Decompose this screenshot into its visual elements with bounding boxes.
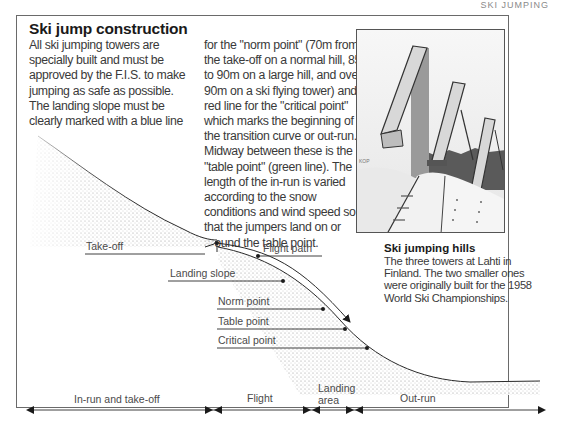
label-norm-point: Norm point xyxy=(218,295,269,307)
zone-in-run-take-off: In-run and take-off xyxy=(74,393,160,405)
label-landing-slope: Landing slope xyxy=(170,267,236,279)
zone-dimension-arrows xyxy=(26,406,546,414)
zone-flight: Flight xyxy=(247,392,273,404)
label-critical-point: Critical point xyxy=(218,334,276,346)
label-take-off: Take-off xyxy=(86,240,123,252)
ski-jump-profile-diagram: Take-off Flight path Landing slope Norm … xyxy=(0,0,561,440)
zone-landing-area-line1: Landing xyxy=(318,382,356,394)
label-flight-path: Flight path xyxy=(263,242,312,254)
label-table-point: Table point xyxy=(218,315,269,327)
zone-out-run: Out-run xyxy=(400,392,436,404)
zone-landing-area-line2: area xyxy=(318,394,339,406)
